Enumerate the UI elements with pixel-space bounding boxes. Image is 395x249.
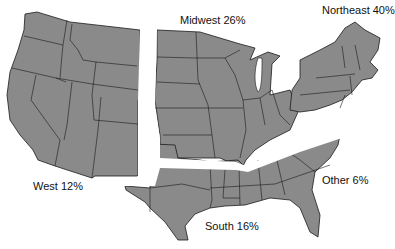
label-west: West 12% (33, 180, 83, 192)
label-other: Other 6% (322, 174, 368, 186)
label-south: South 16% (205, 220, 259, 232)
region-west (7, 12, 147, 178)
region-northeast (290, 22, 380, 112)
label-northeast: Northeast 40% (322, 4, 395, 16)
label-midwest: Midwest 26% (180, 14, 245, 26)
